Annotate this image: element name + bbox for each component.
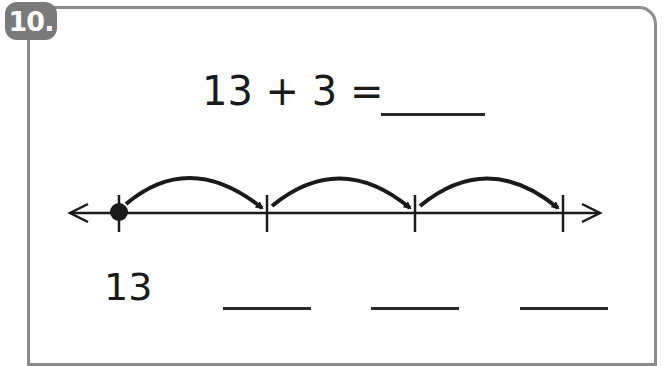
- jump-blank-3[interactable]: [520, 307, 608, 310]
- start-dot: [110, 203, 128, 221]
- jump-arrow-1: [126, 178, 262, 208]
- jump-blank-2[interactable]: [371, 307, 459, 310]
- start-value-label: 13: [104, 265, 152, 309]
- jump-blank-1[interactable]: [223, 307, 311, 310]
- jump-arrow-2: [272, 178, 410, 208]
- jump-arrow-3: [420, 178, 558, 208]
